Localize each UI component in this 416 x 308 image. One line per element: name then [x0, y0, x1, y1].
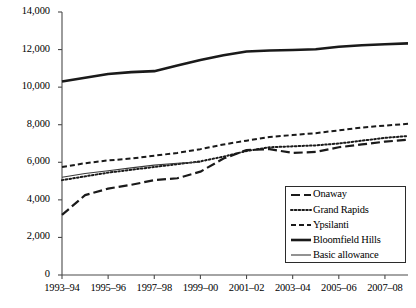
- y-axis-tick-label: 10,000: [4, 81, 50, 92]
- legend-label: Grand Rapids: [313, 205, 369, 216]
- legend-label: Basic allowance: [313, 250, 379, 261]
- y-axis-tick-label: 14,000: [4, 6, 50, 17]
- legend-swatch-icon: [290, 250, 312, 260]
- y-axis-tick-label: 12,000: [4, 44, 50, 55]
- series-line-grand-rapids: [62, 136, 408, 180]
- legend-label: Ypsilanti: [313, 220, 349, 231]
- y-axis-tick-label: 8,000: [4, 119, 50, 130]
- line-chart: 02,0004,0006,0008,00010,00012,00014,000 …: [0, 0, 416, 308]
- series-line-ypsilanti: [62, 124, 408, 167]
- y-axis-tick-label: 4,000: [4, 194, 50, 205]
- legend-swatch-icon: [290, 205, 312, 215]
- y-axis-tick-label: 0: [4, 269, 50, 280]
- legend-swatch-icon: [290, 220, 312, 230]
- legend-item-bloomfield-hills[interactable]: Bloomfield Hills: [286, 233, 405, 248]
- legend-label: Onaway: [313, 189, 347, 200]
- legend-swatch-icon: [290, 235, 312, 245]
- legend-item-ypsilanti[interactable]: Ypsilanti: [286, 217, 405, 232]
- legend-item-basic-allowance[interactable]: Basic allowance: [286, 248, 405, 263]
- legend-item-onaway[interactable]: Onaway: [286, 187, 405, 202]
- legend-swatch-icon: [290, 190, 312, 200]
- x-axis-tick-label: 2007–08: [356, 283, 414, 294]
- legend-item-grand-rapids[interactable]: Grand Rapids: [286, 202, 405, 217]
- series-line-bloomfield-hills: [62, 43, 408, 81]
- y-axis-tick-label: 6,000: [4, 156, 50, 167]
- chart-legend: OnawayGrand RapidsYpsilantiBloomfield Hi…: [285, 186, 406, 263]
- y-axis-tick-label: 2,000: [4, 231, 50, 242]
- legend-label: Bloomfield Hills: [313, 235, 381, 246]
